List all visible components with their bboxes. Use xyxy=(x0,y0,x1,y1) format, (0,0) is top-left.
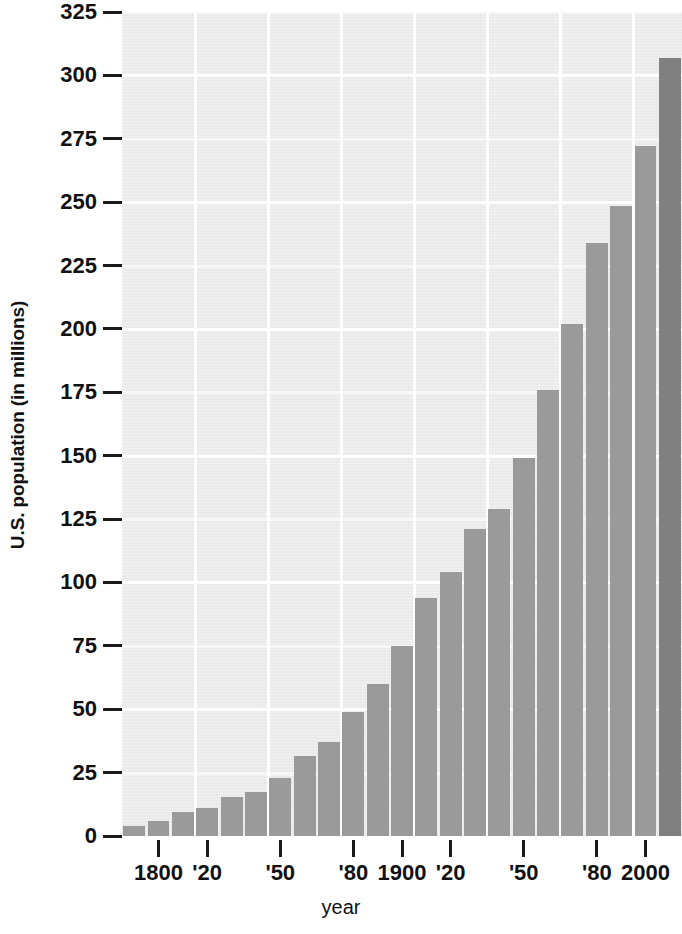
y-tick-label: 225 xyxy=(60,255,103,277)
y-tick-label: 125 xyxy=(60,508,103,530)
x-tick-label-1950: '50 xyxy=(509,860,539,886)
bar-1820 xyxy=(196,808,218,836)
x-tick-mark-1850 xyxy=(279,840,282,857)
bar-1990 xyxy=(610,206,632,836)
y-tick-mark xyxy=(103,771,122,774)
x-tick-mark-1880 xyxy=(352,840,355,857)
y-tick-label: 150 xyxy=(60,445,103,467)
gridline-vertical xyxy=(194,12,197,836)
y-tick-mark xyxy=(103,264,122,267)
y-tick-label: 0 xyxy=(85,825,103,847)
y-tick-label: 175 xyxy=(60,381,103,403)
bar-1800 xyxy=(148,821,170,836)
bar-1860 xyxy=(294,756,316,836)
plot-area xyxy=(122,12,682,836)
bar-1920 xyxy=(440,572,462,836)
x-tick-label-1900: 1900 xyxy=(378,860,427,886)
y-tick-label: 300 xyxy=(60,64,103,86)
y-tick-mark xyxy=(103,327,122,330)
y-tick-label: 25 xyxy=(73,762,103,784)
x-tick-label-1850: '50 xyxy=(265,860,295,886)
y-tick-mark xyxy=(103,518,122,521)
gridline-horizontal xyxy=(122,12,682,14)
bar-1810 xyxy=(172,812,194,836)
y-tick-label: 50 xyxy=(73,698,103,720)
x-axis-title: year xyxy=(0,896,682,919)
bar-1890 xyxy=(367,684,389,836)
bar-1960 xyxy=(537,390,559,836)
chart-figure: U.S. population (in millions) 3253002752… xyxy=(0,0,682,934)
bar-1910 xyxy=(415,598,437,836)
x-tick-label-1800: 1800 xyxy=(134,860,183,886)
y-tick-label: 275 xyxy=(60,128,103,150)
y-axis-title: U.S. population (in millions) xyxy=(0,0,36,850)
bar-1840 xyxy=(245,792,267,836)
y-tick-mark xyxy=(103,708,122,711)
y-tick-label: 200 xyxy=(60,318,103,340)
y-tick-mark xyxy=(103,137,122,140)
y-tick-label: 100 xyxy=(60,571,103,593)
y-tick-label: 325 xyxy=(60,1,103,23)
bar-1870 xyxy=(318,742,340,836)
gridline-horizontal xyxy=(122,201,682,204)
y-tick-label: 250 xyxy=(60,191,103,213)
y-tick-mark xyxy=(103,74,122,77)
bar-1930 xyxy=(464,529,486,836)
x-tick-mark-1820 xyxy=(206,840,209,857)
y-tick-mark xyxy=(103,11,122,14)
x-tick-mark-1900 xyxy=(401,840,404,857)
bar-1830 xyxy=(221,797,243,836)
x-tick-label-2000: 2000 xyxy=(621,860,670,886)
bar-1940 xyxy=(488,509,510,836)
bar-2000 xyxy=(635,146,657,836)
bar-1970 xyxy=(561,324,583,836)
x-axis-ticks: 1800'20'50'801900'20'50'802000 xyxy=(122,836,682,866)
y-axis-ticks: 3253002752502252001751501251007550250 xyxy=(36,0,122,934)
y-tick-label: 75 xyxy=(73,635,103,657)
bar-1900 xyxy=(391,646,413,836)
y-tick-mark xyxy=(103,454,122,457)
bar-1850 xyxy=(269,778,291,836)
y-axis-title-text: U.S. population (in millions) xyxy=(7,301,29,549)
x-tick-label-1880: '80 xyxy=(338,860,368,886)
gridline-horizontal xyxy=(122,74,682,77)
x-tick-mark-1920 xyxy=(449,840,452,857)
bar-1980 xyxy=(586,243,608,836)
y-tick-mark xyxy=(103,644,122,647)
x-tick-mark-1980 xyxy=(595,840,598,857)
x-tick-mark-2000 xyxy=(644,840,647,857)
bar-2010 xyxy=(659,58,681,836)
x-tick-label-1920: '20 xyxy=(436,860,466,886)
x-tick-mark-1950 xyxy=(522,840,525,857)
y-tick-mark xyxy=(103,835,122,838)
gridline-vertical xyxy=(267,12,270,836)
x-tick-mark-1800 xyxy=(157,840,160,857)
y-tick-mark xyxy=(103,391,122,394)
x-tick-label-1820: '20 xyxy=(192,860,222,886)
bar-1790 xyxy=(123,826,145,836)
bar-1880 xyxy=(342,712,364,836)
bar-1950 xyxy=(513,458,535,836)
y-tick-mark xyxy=(103,201,122,204)
x-tick-label-1980: '80 xyxy=(582,860,612,886)
y-tick-mark xyxy=(103,581,122,584)
gridline-horizontal xyxy=(122,138,682,141)
